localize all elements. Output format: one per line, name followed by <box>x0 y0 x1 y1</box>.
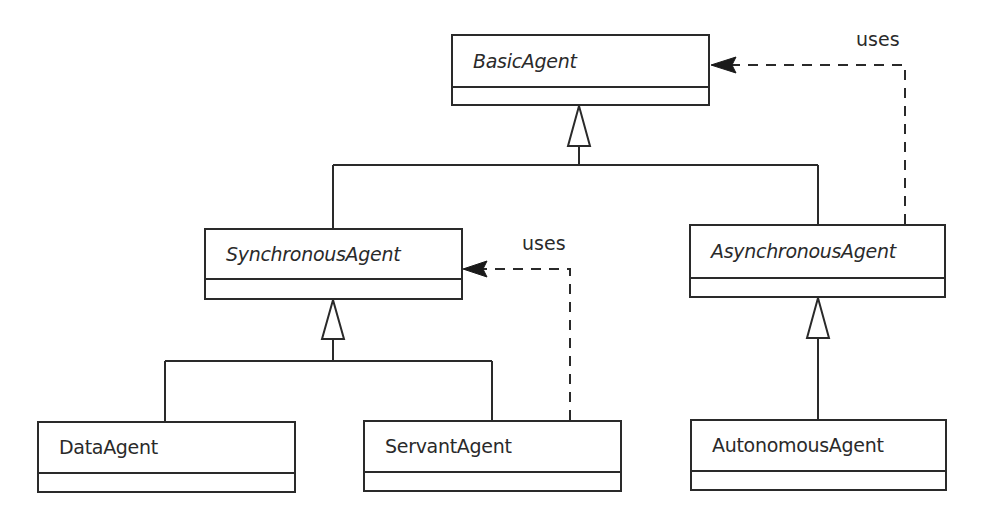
class-servant-agent[interactable]: ServantAgent <box>363 420 622 492</box>
class-compartment-divider <box>453 86 708 88</box>
filled-arrowhead-icon <box>711 57 736 73</box>
dependency-asynchronous-agent-uses-basic-agent <box>711 57 905 224</box>
class-name: DataAgent <box>39 423 294 472</box>
hollow-triangle-arrowhead-icon <box>807 298 829 338</box>
class-name: SynchronousAgent <box>206 230 461 278</box>
uses-label: uses <box>856 28 900 50</box>
class-data-agent[interactable]: DataAgent <box>37 421 296 493</box>
class-name: ServantAgent <box>365 422 620 471</box>
hollow-triangle-arrowhead-icon <box>568 106 590 146</box>
filled-arrowhead-icon <box>463 261 487 277</box>
class-name: AsynchronousAgent <box>691 226 944 277</box>
dependency-servant-agent-uses-synchronous-agent <box>463 261 570 420</box>
generalization-basic-agent <box>333 106 818 228</box>
class-name: BasicAgent <box>453 36 708 86</box>
dashed-dependency-line <box>464 269 570 420</box>
class-name: AutonomousAgent <box>692 421 945 470</box>
class-compartment-divider <box>692 470 945 472</box>
generalization-synchronous-agent <box>165 300 492 421</box>
generalization-asynchronous-agent <box>807 298 829 419</box>
dashed-dependency-line <box>712 65 905 224</box>
class-compartment-divider <box>365 471 620 473</box>
class-compartment-divider <box>691 277 944 279</box>
class-basic-agent[interactable]: BasicAgent <box>451 34 710 106</box>
class-compartment-divider <box>206 278 461 280</box>
uses-label: uses <box>522 232 566 254</box>
class-synchronous-agent[interactable]: SynchronousAgent <box>204 228 463 300</box>
class-asynchronous-agent[interactable]: AsynchronousAgent <box>689 224 946 298</box>
class-autonomous-agent[interactable]: AutonomousAgent <box>690 419 947 491</box>
hollow-triangle-arrowhead-icon <box>322 300 344 339</box>
class-compartment-divider <box>39 472 294 474</box>
